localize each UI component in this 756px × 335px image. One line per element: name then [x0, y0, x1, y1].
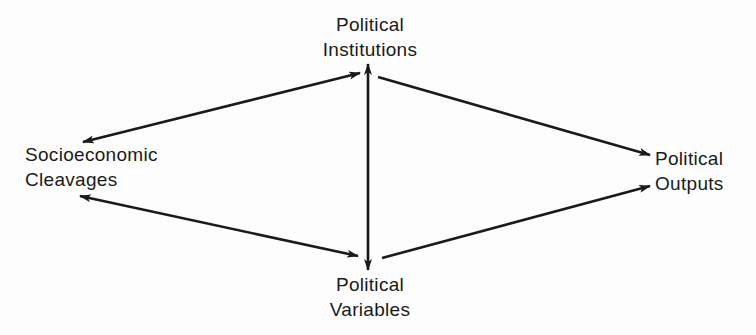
node-socioeconomic-cleavages: Socioeconomic Cleavages	[25, 142, 158, 192]
node-label-line1: Socioeconomic	[25, 142, 158, 167]
node-label-line1: Political	[300, 272, 440, 297]
edge-cleavages-institutions	[83, 73, 360, 142]
node-political-institutions: Political Institutions	[300, 12, 440, 62]
node-label-line1: Political	[655, 146, 724, 171]
diagram-canvas: Political Institutions Socioeconomic Cle…	[0, 0, 756, 335]
node-label-line1: Political	[300, 12, 440, 37]
node-political-outputs: Political Outputs	[655, 146, 724, 196]
node-political-variables: Political Variables	[300, 272, 440, 322]
node-label-line2: Institutions	[300, 37, 440, 62]
node-label-line2: Cleavages	[25, 167, 158, 192]
node-label-line2: Outputs	[655, 171, 724, 196]
edge-institutions-outputs	[378, 77, 650, 155]
node-label-line2: Variables	[300, 297, 440, 322]
edge-variables-outputs	[382, 186, 650, 258]
edge-cleavages-variables	[80, 196, 358, 256]
